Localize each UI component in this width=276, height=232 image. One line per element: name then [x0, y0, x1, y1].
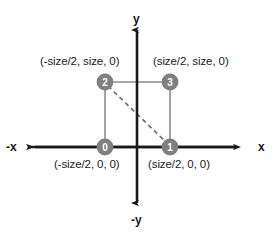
- vertex-node-0[interactable]: 0: [97, 139, 114, 156]
- coordinate-label-vertex-0: (-size/2, 0, 0): [54, 159, 120, 171]
- vertex-index-2: 2: [102, 77, 108, 88]
- axis-label-y-negative: -y: [131, 214, 142, 226]
- axis-label-x-negative: -x: [6, 141, 17, 153]
- diagram-canvas: 2 3 0 1: [0, 0, 276, 232]
- vertex-node-1[interactable]: 1: [162, 139, 179, 156]
- axis-label-y-positive: y: [133, 13, 140, 25]
- vertex-index-0: 0: [102, 142, 108, 153]
- vertex-node-3[interactable]: 3: [162, 74, 179, 91]
- vertex-node-2[interactable]: 2: [97, 74, 114, 91]
- coordinate-label-vertex-1: (size/2, 0, 0): [148, 159, 210, 171]
- quad-coordinate-diagram: 2 3 0 1 y -y -x x (-size/2, size, 0) (si…: [0, 0, 276, 232]
- coordinate-label-vertex-2: (-size/2, size, 0): [40, 56, 119, 68]
- axis-label-x-positive: x: [258, 141, 265, 153]
- vertex-index-1: 1: [167, 142, 173, 153]
- coordinate-label-vertex-3: (size/2, size, 0): [153, 56, 229, 68]
- vertex-index-3: 3: [167, 77, 173, 88]
